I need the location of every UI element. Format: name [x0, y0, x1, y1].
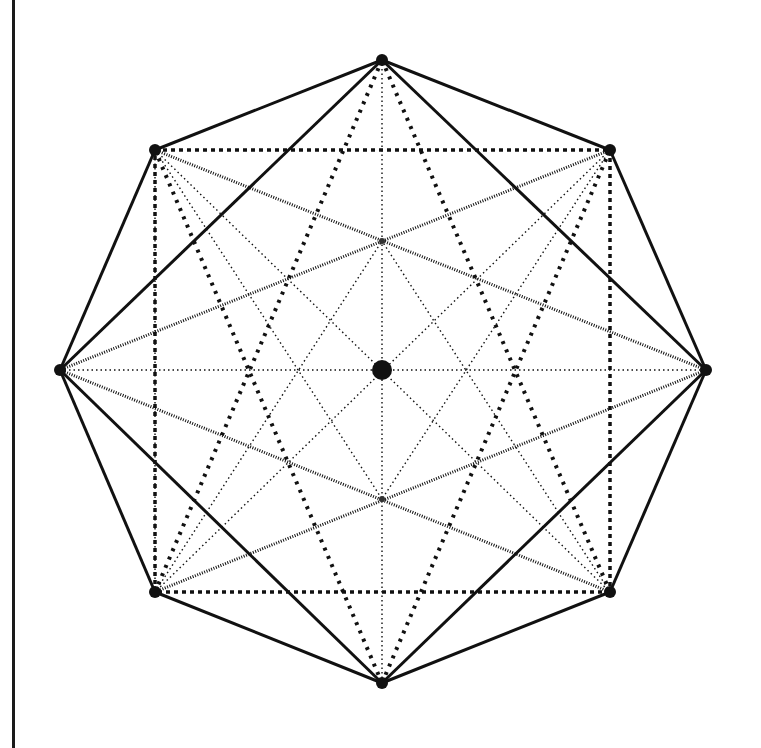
segment-solid: [382, 60, 706, 370]
segment-hatched: [60, 150, 610, 370]
segment-bold-dotted: [155, 60, 382, 592]
center-point: [372, 360, 392, 380]
segment-solid: [60, 370, 382, 683]
segment-bold-dotted: [382, 60, 610, 592]
octagon-diagram: [0, 0, 761, 748]
segment-solid: [60, 60, 382, 370]
segment-bold-dotted: [155, 150, 382, 683]
segment-solid: [155, 592, 382, 683]
segment-fine-dotted: [155, 150, 382, 499]
segment-solid: [382, 592, 610, 683]
segment-solid: [60, 370, 155, 592]
vertex-bottom-left: [149, 586, 161, 598]
vertex-top-right: [604, 144, 616, 156]
segment-hatched: [60, 370, 610, 592]
vertex-left: [54, 364, 66, 376]
vertex-bottom: [376, 677, 388, 689]
vertex-top-left: [149, 144, 161, 156]
vertex-top: [376, 54, 388, 66]
segment-solid: [60, 150, 155, 370]
vertex-right: [700, 364, 712, 376]
point-inner-mid-bottom: [379, 496, 385, 502]
vertex-bottom-right: [604, 586, 616, 598]
point-inner-mid-top: [379, 238, 385, 244]
segment-bold-dotted: [382, 150, 610, 683]
